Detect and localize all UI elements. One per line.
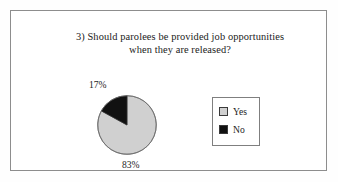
legend-item-yes: Yes <box>219 107 247 117</box>
pie-label-no: 17% <box>89 79 107 90</box>
pie-chart-svg <box>97 95 157 155</box>
figure-border: 3) Should parolees be provided job oppor… <box>10 10 327 171</box>
figure-container: 3) Should parolees be provided job oppor… <box>0 0 338 182</box>
pie-label-yes: 83% <box>122 159 140 170</box>
legend-swatch-no-icon <box>219 125 228 134</box>
chart-legend: Yes No <box>212 97 260 146</box>
chart-title-line-2: when they are released? <box>31 44 329 57</box>
legend-label-yes: Yes <box>233 107 247 117</box>
chart-title: 3) Should parolees be provided job oppor… <box>31 31 329 56</box>
legend-swatch-yes-icon <box>219 107 228 116</box>
legend-item-no: No <box>219 125 245 135</box>
pie-chart <box>97 95 157 155</box>
legend-label-no: No <box>233 125 245 135</box>
chart-title-line-1: 3) Should parolees be provided job oppor… <box>31 31 329 44</box>
